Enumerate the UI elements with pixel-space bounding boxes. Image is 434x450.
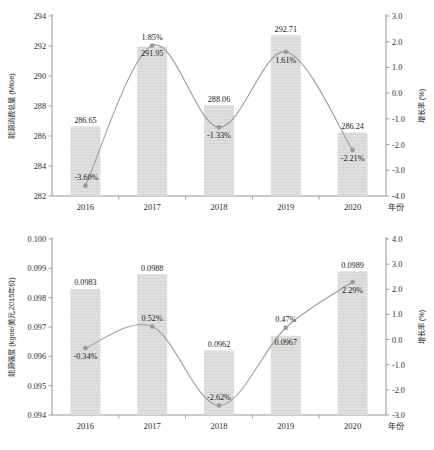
growth-rate-label-2018: -1.33% xyxy=(207,131,231,140)
growth-rate-label-2016: -3.60% xyxy=(74,173,98,182)
growth-rate-label-2017: 0.52% xyxy=(142,314,163,323)
growth-rate-marker-2017 xyxy=(150,324,154,328)
chart-energy-intensity: 0.0940.0950.0960.0970.0980.0990.100-3.0-… xyxy=(0,225,434,450)
right-tick-label: 2.0 xyxy=(392,38,402,47)
right-tick-label: 1.0 xyxy=(392,310,402,319)
dual-chart-figure: 282284286288290292294-4.0-3.0-2.0-1.00.0… xyxy=(0,0,434,450)
x-tick-label-2017: 2017 xyxy=(144,421,162,431)
left-tick-label: 294 xyxy=(34,12,46,21)
bar-2020 xyxy=(338,132,368,196)
bar-value-label-2016: 286.65 xyxy=(74,116,97,125)
y2-axis-title: 增长率 (%) xyxy=(417,89,426,124)
x-tick-label-2017: 2017 xyxy=(144,202,162,212)
chart-svg-energy-intensity: 0.0940.0950.0960.0970.0980.0990.100-3.0-… xyxy=(0,225,434,450)
x-tick-label-2018: 2018 xyxy=(210,202,227,212)
growth-rate-marker-2018 xyxy=(217,125,221,129)
right-tick-label: 3.0 xyxy=(392,12,402,21)
left-tick-label: 0.095 xyxy=(28,382,46,391)
left-tick-label: 0.098 xyxy=(28,294,46,303)
bar-2018 xyxy=(204,105,234,196)
growth-rate-label-2020: -2.21% xyxy=(341,154,365,163)
left-tick-label: 288 xyxy=(34,102,46,111)
growth-rate-marker-2019 xyxy=(284,326,288,330)
bar-value-label-2017: 291.95 xyxy=(141,49,164,58)
left-tick-label: 292 xyxy=(34,42,46,51)
growth-rate-label-2017: 1.85% xyxy=(142,33,163,42)
x-tick-label-2016: 2016 xyxy=(77,421,95,431)
y-axis-title: 能源强度 (kgoe/美元,2015年价) xyxy=(7,277,16,377)
right-tick-label: -1.0 xyxy=(392,361,405,370)
growth-rate-label-2018: -2.62% xyxy=(207,393,231,402)
x-tick-label-2020: 2020 xyxy=(344,202,361,212)
growth-rate-marker-2018 xyxy=(217,403,221,407)
bar-2019 xyxy=(271,336,301,415)
right-tick-label: 4.0 xyxy=(392,235,402,244)
left-tick-label: 0.096 xyxy=(28,352,46,361)
bar-value-label-2020: 0.0989 xyxy=(341,261,364,270)
growth-rate-label-2020: 2.29% xyxy=(342,286,363,295)
right-tick-label: -2.0 xyxy=(392,386,405,395)
x-tick-label-2019: 2019 xyxy=(277,421,294,431)
x-tick-label-2016: 2016 xyxy=(77,202,95,212)
right-tick-label: -3.0 xyxy=(392,411,405,420)
right-tick-label: 2.0 xyxy=(392,285,402,294)
bar-value-label-2016: 0.0983 xyxy=(74,278,97,287)
right-tick-label: 3.0 xyxy=(392,260,402,269)
bar-value-label-2019: 0.0967 xyxy=(275,338,298,347)
right-tick-label: -1.0 xyxy=(392,115,405,124)
right-tick-label: 1.0 xyxy=(392,63,402,72)
bar-value-label-2020: 286.24 xyxy=(341,122,364,131)
y-axis-title: 能源消费总量 (Mtoe) xyxy=(7,73,16,138)
left-tick-label: 0.099 xyxy=(28,264,46,273)
left-tick-label: 0.100 xyxy=(28,235,46,244)
growth-rate-label-2019: 0.47% xyxy=(275,315,296,324)
bar-2017 xyxy=(137,47,167,196)
left-tick-label: 282 xyxy=(34,192,46,201)
chart-top-canvas: 282284286288290292294-4.0-3.0-2.0-1.00.0… xyxy=(0,0,434,225)
chart-svg-energy-consumption: 282284286288290292294-4.0-3.0-2.0-1.00.0… xyxy=(0,0,434,225)
x-tick-label-2018: 2018 xyxy=(210,421,227,431)
growth-rate-label-2016: -0.34% xyxy=(73,352,97,361)
growth-rate-marker-2020 xyxy=(351,280,355,284)
bar-value-label-2017: 0.0988 xyxy=(141,264,164,273)
right-tick-label: -3.0 xyxy=(392,166,405,175)
growth-rate-marker-2020 xyxy=(351,148,355,152)
bar-2017 xyxy=(137,274,167,415)
growth-rate-marker-2017 xyxy=(150,43,154,47)
right-tick-label: 0.0 xyxy=(392,336,402,345)
x-tick-label-2020: 2020 xyxy=(344,421,361,431)
left-tick-label: 0.094 xyxy=(28,411,46,420)
bar-value-label-2018: 288.06 xyxy=(208,95,231,104)
left-tick-label: 290 xyxy=(34,72,46,81)
x-axis-title: 年份 xyxy=(388,421,404,431)
left-tick-label: 284 xyxy=(34,162,46,171)
chart-energy-consumption: 282284286288290292294-4.0-3.0-2.0-1.00.0… xyxy=(0,0,434,225)
x-tick-label-2019: 2019 xyxy=(277,202,294,212)
x-axis-title: 年份 xyxy=(388,202,404,212)
left-tick-label: 0.097 xyxy=(28,323,46,332)
chart-bottom-canvas: 0.0940.0950.0960.0970.0980.0990.100-3.0-… xyxy=(0,225,434,450)
growth-rate-marker-2016 xyxy=(83,346,87,350)
right-tick-label: -2.0 xyxy=(392,141,405,150)
right-tick-label: 0.0 xyxy=(392,89,402,98)
growth-rate-marker-2019 xyxy=(284,50,288,54)
bar-value-label-2019: 292.71 xyxy=(275,25,298,34)
right-tick-label: -4.0 xyxy=(392,192,405,201)
y2-axis-title: 增长率 (%) xyxy=(417,310,426,345)
bar-value-label-2018: 0.0962 xyxy=(208,340,231,349)
left-tick-label: 286 xyxy=(34,132,46,141)
growth-rate-marker-2016 xyxy=(83,184,87,188)
growth-rate-label-2019: 1.61% xyxy=(275,56,296,65)
